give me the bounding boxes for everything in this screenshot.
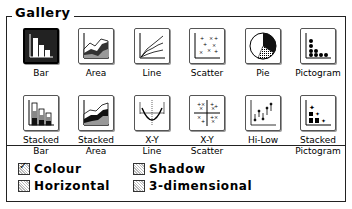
- svg-text:×: ×: [211, 105, 215, 111]
- stacked-bar-chart-icon[interactable]: [23, 95, 59, 131]
- svg-text:✦: ✦: [321, 117, 326, 124]
- hi-low-chart-icon[interactable]: [245, 95, 281, 131]
- svg-text:×: ×: [199, 105, 203, 111]
- stacked-area-chart-icon[interactable]: [78, 95, 114, 131]
- xy-scatter-chart-icon[interactable]: +××++× ×++××: [189, 95, 225, 131]
- shadow-checkbox[interactable]: Shadow: [133, 162, 206, 176]
- item-label: Line: [124, 68, 180, 79]
- svg-text:+: +: [214, 35, 218, 41]
- gallery-title: Gallery: [12, 5, 74, 21]
- gallery-item-area[interactable]: Area: [68, 28, 124, 79]
- gallery-item-bar[interactable]: Bar: [13, 28, 69, 79]
- pictogram-chart-icon[interactable]: [300, 28, 336, 64]
- item-label: Pie: [235, 68, 291, 79]
- gallery-item-hi-low[interactable]: Hi-Low: [235, 95, 291, 146]
- svg-text:+: +: [214, 48, 218, 54]
- xy-line-chart-icon[interactable]: [134, 95, 170, 131]
- line-chart-icon[interactable]: [134, 28, 170, 64]
- checkbox-unchecked-icon[interactable]: [18, 180, 30, 192]
- item-label: Bar: [13, 68, 69, 79]
- horizontal-label: Horizontal: [34, 179, 110, 193]
- checkbox-checked-icon[interactable]: [18, 163, 30, 175]
- gallery-item-pie[interactable]: Pie: [235, 28, 291, 79]
- svg-text:×: ×: [209, 35, 213, 41]
- svg-text:×: ×: [211, 118, 215, 124]
- colour-checkbox[interactable]: Colour: [18, 162, 81, 176]
- gallery-item-line[interactable]: Line: [124, 28, 180, 79]
- svg-text:+: +: [201, 118, 205, 124]
- svg-text:×: ×: [199, 49, 203, 55]
- three-dimensional-label: 3-dimensional: [149, 179, 252, 193]
- gallery-item-pictogram[interactable]: Pictogram: [290, 28, 346, 79]
- shadow-label: Shadow: [149, 162, 206, 176]
- item-label: Scatter: [179, 68, 235, 79]
- three-dimensional-checkbox[interactable]: 3-dimensional: [133, 179, 252, 193]
- svg-text:×: ×: [207, 47, 211, 53]
- colour-label: Colour: [34, 162, 81, 176]
- item-label: Pictogram: [290, 68, 346, 79]
- area-chart-icon[interactable]: [78, 28, 114, 64]
- stacked-pictogram-chart-icon[interactable]: ✦ ✦✦: [300, 95, 336, 131]
- checkbox-unchecked-icon[interactable]: [133, 180, 145, 192]
- item-label: Area: [68, 68, 124, 79]
- horizontal-checkbox[interactable]: Horizontal: [18, 179, 110, 193]
- checkbox-unchecked-icon[interactable]: [133, 163, 145, 175]
- bar-chart-icon[interactable]: [23, 28, 59, 64]
- scatter-chart-icon[interactable]: +×++×××+: [189, 28, 225, 64]
- pie-chart-icon[interactable]: [245, 28, 281, 64]
- svg-text:✦: ✦: [315, 110, 320, 117]
- gallery-item-scatter[interactable]: +×++×××+ Scatter: [179, 28, 235, 79]
